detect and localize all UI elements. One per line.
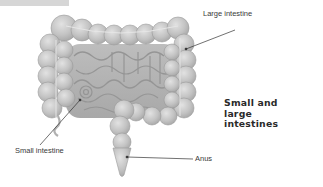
intestines-illustration [0, 0, 323, 187]
leader-line-anus [127, 157, 193, 159]
label-small-intestine: Small intestine [15, 147, 64, 156]
figure-title: Small and large intestines [224, 98, 304, 130]
label-large-intestine: Large intestine [203, 10, 235, 19]
label-anus: Anus [195, 155, 212, 164]
leader-line-large-intestine [186, 30, 235, 49]
